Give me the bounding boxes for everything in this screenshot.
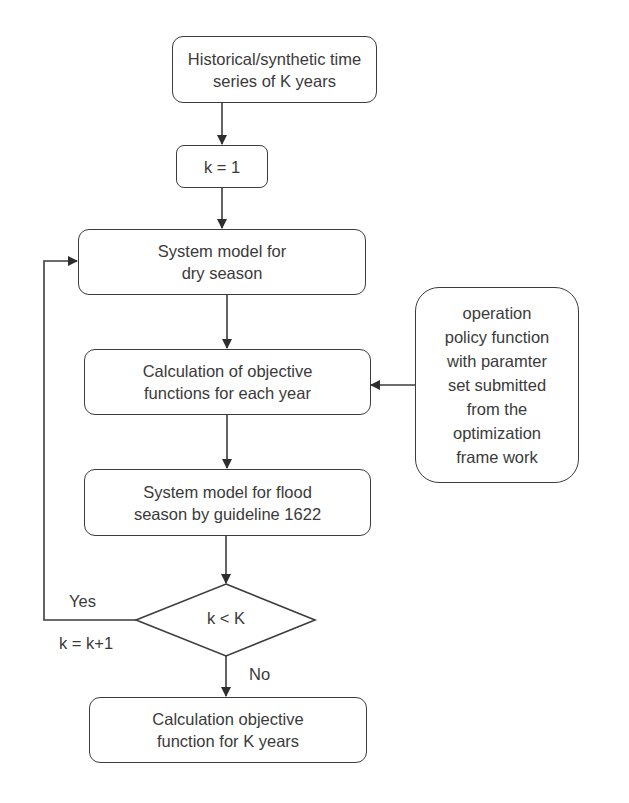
- edge-label-yes: Yes: [69, 592, 96, 611]
- node-init-k: k = 1: [176, 145, 268, 188]
- node-operation-policy: operation policy function with paramter …: [415, 287, 579, 483]
- arrow-loop-yes: [44, 261, 136, 620]
- node-objective-each-year: Calculation of objective functions for e…: [84, 349, 371, 415]
- node-input-time-series: Historical/synthetic time series of K ye…: [172, 36, 377, 103]
- node-dry-season-model: System model for dry season: [78, 229, 366, 295]
- edge-label-no: No: [249, 665, 270, 684]
- decision-label: k < K: [186, 609, 266, 628]
- node-objective-k-years: Calculation objective function for K yea…: [89, 697, 367, 763]
- edge-label-increment: k = k+1: [59, 634, 113, 653]
- node-flood-season-model: System model for flood season by guideli…: [84, 469, 371, 536]
